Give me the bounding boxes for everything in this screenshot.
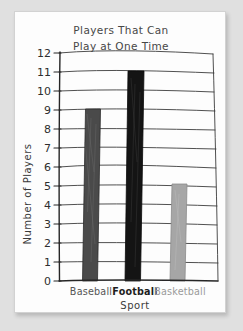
bar-baseball	[83, 109, 101, 281]
y-tick-1: 1	[44, 256, 51, 269]
y-axis-tick-labels: 12 11 10 9 8 7 6 5 4 3 2 1 0	[37, 47, 51, 288]
x-category-baseball: Baseball	[70, 286, 112, 297]
page-background: Players That Can Play at One Time Number…	[0, 0, 243, 331]
x-category-basketball: Basketball	[154, 286, 206, 297]
y-tick-8: 8	[44, 123, 51, 136]
bars-group	[83, 71, 188, 281]
chart-paper-card: Players That Can Play at One Time Number…	[14, 11, 226, 313]
x-axis-label: Sport	[120, 300, 149, 311]
y-axis-label: Number of Players	[22, 144, 33, 245]
x-axis-category-labels: Baseball Football Basketball	[70, 286, 206, 297]
y-tick-4: 4	[44, 199, 51, 212]
bar-football	[125, 71, 144, 281]
y-tick-2: 2	[44, 237, 51, 250]
hand-drawn-bar-chart: Players That Can Play at One Time Number…	[15, 12, 226, 313]
y-tick-3: 3	[44, 218, 51, 231]
chart-title-line-2: Play at One Time	[73, 40, 169, 52]
y-tick-10: 10	[37, 85, 51, 98]
bar-basketball	[170, 184, 187, 281]
y-tick-0: 0	[44, 275, 51, 288]
chart-title-line-1: Players That Can	[73, 24, 168, 36]
x-category-football: Football	[112, 286, 157, 297]
y-tick-5: 5	[44, 180, 51, 193]
y-tick-9: 9	[44, 104, 51, 117]
y-tick-12: 12	[37, 47, 51, 60]
y-tick-7: 7	[44, 142, 51, 155]
y-tick-6: 6	[44, 161, 51, 174]
y-tick-11: 11	[37, 66, 51, 79]
